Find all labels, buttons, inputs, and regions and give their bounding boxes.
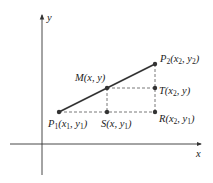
label-p1: P1(x1, y1) <box>47 118 88 131</box>
label-r: R(x2, y1) <box>158 113 195 126</box>
point-r <box>153 110 157 114</box>
x-axis-label: x <box>195 148 201 159</box>
label-p2: P2(x2, y2) <box>159 53 200 66</box>
point-s <box>105 110 109 114</box>
point-t <box>153 86 157 90</box>
point-p2 <box>153 62 157 66</box>
label-t: T(x2, y) <box>159 85 191 98</box>
point-m <box>105 86 109 90</box>
point-p1 <box>57 110 61 114</box>
midpoint-diagram: x y P1(x1, y1) S(x, y1) R(x2, y1) T(x2, … <box>0 0 213 183</box>
diagram-canvas: x y P1(x1, y1) S(x, y1) R(x2, y1) T(x2, … <box>0 0 213 183</box>
label-s: S(x, y1) <box>101 118 132 131</box>
y-axis-label: y <box>46 12 52 23</box>
label-m: M(x, y) <box>74 72 106 84</box>
